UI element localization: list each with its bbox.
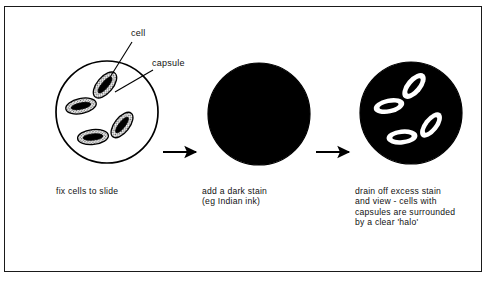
figure-root: cell capsule fix cells to slide add a da… — [0, 0, 493, 282]
panel-step-2-dark-stain — [208, 63, 310, 165]
caption-step-3: drain off excess stain and view - cells … — [355, 186, 455, 228]
caption-step-1: fix cells to slide — [56, 186, 118, 196]
diagram-canvas — [0, 0, 493, 282]
panel-step-1-unstained-slide — [56, 42, 158, 163]
annotation-label-capsule: capsule — [152, 58, 185, 68]
halo-background-circle — [360, 62, 462, 164]
annotation-label-cell: cell — [131, 28, 146, 38]
panel-step-3-halo-view — [360, 62, 462, 164]
dark-stain-circle — [208, 63, 310, 165]
caption-step-2: add a dark stain (eg Indian ink) — [202, 186, 267, 207]
